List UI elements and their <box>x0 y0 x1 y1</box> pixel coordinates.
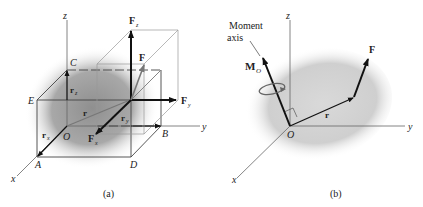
moment-axis-label-line1: Moment <box>229 20 263 31</box>
z-axis-label: z <box>62 10 67 21</box>
point-A-label: A <box>34 159 42 170</box>
moment-diagram: z y x C E O A D B r r z r x r y F z F F … <box>0 0 423 207</box>
point-B-label: B <box>162 128 168 139</box>
moment-axis-label-line2: axis <box>227 32 243 43</box>
svg-text:x: x <box>46 135 50 141</box>
F-label: F <box>369 44 375 55</box>
r-label: r <box>325 110 329 120</box>
caption-b: (b) <box>330 188 342 200</box>
point-D-label: D <box>129 159 138 170</box>
svg-text:M: M <box>245 60 256 72</box>
caption-a: (a) <box>103 188 114 200</box>
panel-a: z y x C E O A D B r r z r x r y F z F F … <box>8 10 207 200</box>
rigid-body-blob <box>8 28 177 187</box>
svg-text:y: y <box>125 118 129 124</box>
svg-text:F: F <box>88 133 94 144</box>
y-axis-label: y <box>201 121 207 132</box>
svg-text:O: O <box>256 67 261 75</box>
svg-text:x: x <box>94 140 98 146</box>
moment-label: M O <box>245 60 261 75</box>
r-label: r <box>83 108 87 118</box>
svg-text:r: r <box>70 85 74 95</box>
Fz-label: F z <box>129 15 139 28</box>
origin-O-label: O <box>287 129 294 140</box>
panel-b: z y x O Moment axis M O r F (b) <box>227 10 413 200</box>
point-C-label: C <box>70 57 77 68</box>
svg-text:r: r <box>42 130 46 140</box>
F-label: F <box>139 52 145 63</box>
svg-text:F: F <box>181 95 187 106</box>
svg-text:F: F <box>129 15 135 26</box>
z-axis-label: z <box>285 10 290 21</box>
x-axis-label: x <box>10 173 16 184</box>
point-O-label: O <box>63 131 70 142</box>
svg-text:r: r <box>121 113 125 123</box>
svg-text:y: y <box>187 102 191 108</box>
moment-axis-leader <box>250 41 260 56</box>
rigid-body-blob <box>227 34 403 176</box>
y-axis-label: y <box>407 121 413 132</box>
point-E-label: E <box>27 95 34 106</box>
x-axis-label: x <box>231 174 237 185</box>
svg-text:z: z <box>135 22 139 28</box>
Fy-label: F y <box>181 95 191 108</box>
